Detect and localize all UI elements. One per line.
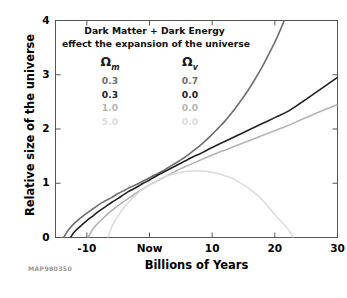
legend-row: 1.00.0	[84, 101, 216, 115]
legend-header-omega-v: Ωv	[164, 55, 216, 74]
legend-rows: 0.30.70.30.01.00.05.00.0	[84, 74, 216, 128]
y-tick-label: 4	[30, 14, 50, 26]
legend-header-omega-m: Ωm	[84, 55, 136, 74]
legend-omega-v-value: 0.7	[164, 74, 216, 88]
annotation-line-2: effect the expansion of the universe	[62, 38, 247, 51]
expansion-curve	[108, 171, 293, 237]
legend-omega-v-value: 0.0	[164, 101, 216, 115]
y-tick-label: 1	[30, 176, 50, 188]
legend-row: 0.30.0	[84, 88, 216, 102]
legend-omega-m-value: 5.0	[84, 115, 136, 129]
legend-table: Ωm Ωv 0.30.70.30.01.00.05.00.0	[84, 55, 216, 128]
credit-watermark: MAP980350	[28, 265, 72, 272]
x-tick-label: 20	[255, 242, 295, 254]
legend: Dark Matter + Dark Energy effect the exp…	[62, 25, 247, 128]
x-tick-label: 30	[318, 242, 347, 254]
legend-omega-m-value: 1.0	[84, 101, 136, 115]
x-tick-label: 10	[192, 242, 232, 254]
legend-row: 0.30.7	[84, 74, 216, 88]
annotation-line-1: Dark Matter + Dark Energy	[62, 25, 247, 38]
legend-omega-v-value: 0.0	[164, 88, 216, 102]
legend-row: 5.00.0	[84, 115, 216, 129]
y-tick-label: 2	[30, 122, 50, 134]
y-tick-label: 3	[30, 68, 50, 80]
legend-omega-m-value: 0.3	[84, 88, 136, 102]
y-tick-label: 0	[30, 231, 50, 243]
x-tick-label: -10	[67, 242, 107, 254]
legend-omega-m-value: 0.3	[84, 74, 136, 88]
cosmology-expansion-figure: Relative size of the universe Billions o…	[0, 0, 347, 298]
x-axis-title: Billions of Years	[55, 258, 338, 272]
x-tick-label: Now	[130, 242, 170, 254]
legend-omega-v-value: 0.0	[164, 115, 216, 129]
legend-header-row: Ωm Ωv	[84, 55, 216, 74]
